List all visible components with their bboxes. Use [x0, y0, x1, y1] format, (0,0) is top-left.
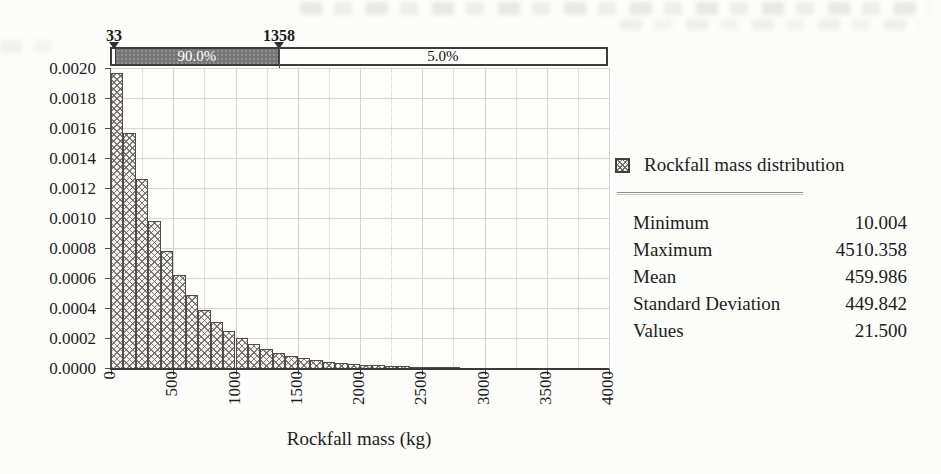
- x-tick-label: 2500: [412, 371, 430, 425]
- gridline-vertical: [547, 68, 548, 368]
- y-tick-label: 0.0008: [49, 240, 96, 257]
- x-tick-label: 2000: [350, 371, 368, 425]
- percentile-right-label: 5.0%: [427, 49, 458, 64]
- legend-label: Rockfall mass distribution: [644, 154, 845, 176]
- histogram-bar: [211, 322, 223, 369]
- y-tick-label: 0.0020: [49, 60, 96, 77]
- x-tick-label: 1000: [226, 371, 244, 425]
- histogram-bar: [310, 360, 322, 368]
- histogram-bar: [410, 367, 422, 368]
- x-tick-label: 500: [163, 371, 181, 425]
- histogram-bar: [260, 349, 272, 368]
- table-row: Minimum 10.004: [633, 209, 907, 236]
- table-row: Values 21.500: [633, 317, 907, 344]
- y-tick-mark: [105, 188, 111, 189]
- gridline-vertical: [360, 68, 361, 368]
- histogram-bar: [136, 179, 148, 368]
- x-axis: 05001000150020002500300035004000: [110, 372, 608, 430]
- y-tick-label: 0.0016: [49, 120, 96, 137]
- histogram-bar: [447, 367, 459, 368]
- y-tick-mark: [105, 308, 111, 309]
- gridline-vertical: [267, 68, 268, 368]
- y-tick-mark: [105, 338, 111, 339]
- gridline-vertical: [236, 68, 237, 368]
- percentile-band-right-tail: 5.0%: [280, 49, 606, 64]
- stat-value: 459.986: [845, 263, 907, 290]
- histogram-bar: [348, 364, 360, 368]
- histogram-bar: [123, 133, 135, 369]
- gridline-vertical: [516, 68, 517, 368]
- histogram-bar: [435, 367, 447, 368]
- percentile-band-middle: 90.0%: [116, 49, 280, 64]
- stat-value: 21.500: [855, 317, 907, 344]
- y-tick-label: 0.0012: [49, 180, 96, 197]
- y-tick-mark: [105, 248, 111, 249]
- x-tick-label: 4000: [599, 371, 617, 425]
- histogram-bar: [285, 356, 297, 368]
- y-tick-label: 0.0004: [49, 300, 96, 317]
- print-bleed-smudge: [620, 19, 920, 30]
- histogram-bar: [360, 365, 372, 368]
- histogram-bar: [323, 362, 335, 368]
- histogram-bar: [148, 221, 160, 368]
- x-tick-label: 1500: [288, 371, 306, 425]
- stats-table: Minimum 10.004 Maximum 4510.358 Mean 459…: [633, 209, 907, 344]
- y-tick-label: 0.0006: [49, 270, 96, 287]
- histogram-bar: [111, 73, 123, 369]
- y-tick-label: 0.0018: [49, 90, 96, 107]
- gridline-vertical: [453, 68, 454, 368]
- histogram-bar: [248, 344, 260, 368]
- stat-label: Minimum: [633, 209, 709, 236]
- y-tick-mark: [105, 158, 111, 159]
- y-tick-label: 0.0000: [49, 360, 96, 377]
- y-axis: 0.00200.00180.00160.00140.00120.00100.00…: [18, 68, 104, 368]
- crosshatch-swatch-icon: [615, 158, 630, 173]
- histogram-bar: [397, 366, 409, 368]
- legend-divider: [617, 192, 803, 195]
- print-bleed-smudge: [300, 2, 930, 15]
- left-delimiter-marker-icon: [109, 42, 119, 49]
- gridline-vertical: [298, 68, 299, 368]
- y-tick-label: 0.0010: [49, 210, 96, 227]
- histogram-bar: [236, 338, 248, 368]
- table-row: Mean 459.986: [633, 263, 907, 290]
- x-tick-label: 3000: [475, 371, 493, 425]
- stat-value: 10.004: [855, 209, 907, 236]
- stat-label: Mean: [633, 263, 676, 290]
- histogram-bar: [385, 366, 397, 368]
- histogram-bar: [422, 367, 434, 368]
- y-tick-mark: [105, 218, 111, 219]
- percentile-middle-label: 90.0%: [178, 49, 217, 64]
- gridline-vertical: [485, 68, 486, 368]
- histogram-bar: [161, 251, 173, 368]
- stat-value: 4510.358: [836, 236, 907, 263]
- gridline-vertical: [578, 68, 579, 368]
- x-axis-title: Rockfall mass (kg): [110, 428, 608, 450]
- percentile-band: 90.0% 5.0%: [110, 47, 608, 66]
- histogram-bar: [198, 310, 210, 369]
- table-row: Maximum 4510.358: [633, 236, 907, 263]
- y-tick-mark: [105, 98, 111, 99]
- histogram-bar: [335, 363, 347, 368]
- y-tick-label: 0.0014: [49, 150, 96, 167]
- x-tick-label: 3500: [537, 371, 555, 425]
- y-tick-label: 0.0002: [49, 330, 96, 347]
- y-tick-mark: [105, 68, 111, 69]
- histogram-bar: [273, 353, 285, 368]
- y-tick-mark: [105, 128, 111, 129]
- gridline-vertical: [422, 68, 423, 368]
- stat-label: Standard Deviation: [633, 290, 780, 317]
- figure-page: 90.0% 5.0% 33 1358 0.00200.00180.00160.0…: [0, 0, 941, 474]
- stat-label: Maximum: [633, 236, 712, 263]
- gridline-vertical: [329, 68, 330, 368]
- legend: Rockfall mass distribution: [615, 154, 845, 176]
- print-bleed-smudge: [0, 40, 52, 53]
- stat-label: Values: [633, 317, 684, 344]
- histogram-bar: [186, 295, 198, 369]
- y-tick-mark: [105, 368, 111, 369]
- histogram-bar: [223, 331, 235, 369]
- histogram-bar: [173, 275, 185, 368]
- histogram-bar: [372, 365, 384, 368]
- histogram-bar: [298, 358, 310, 368]
- table-row: Standard Deviation 449.842: [633, 290, 907, 317]
